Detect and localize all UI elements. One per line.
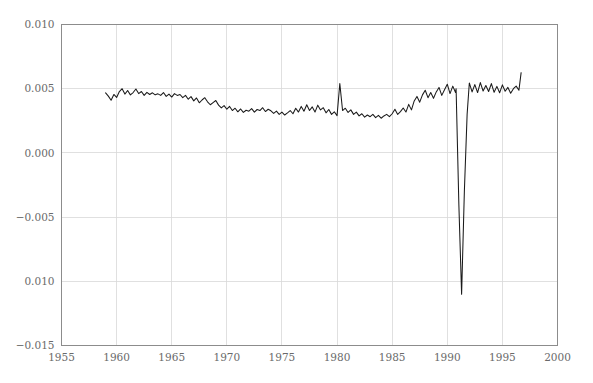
y-tick-label-4: 0.010 [24, 275, 54, 287]
y-tick-label-1: 0.005 [24, 82, 54, 94]
y-tick-label-2: 0.000 [24, 147, 54, 159]
x-tick-label-4: 1975 [269, 351, 296, 363]
x-tick-label-0: 1955 [48, 351, 75, 363]
y-tick-label-5: −0.015 [16, 339, 55, 351]
x-tick-label-1: 1960 [103, 351, 130, 363]
y-tick-label-3: −0.005 [16, 211, 55, 223]
chart-container: 0.0100.0050.000−0.0050.010−0.015 1955196… [0, 0, 593, 383]
x-tick-label-7: 1990 [434, 351, 461, 363]
x-tick-label-5: 1980 [324, 351, 351, 363]
x-tick-label-2: 1965 [158, 351, 185, 363]
y-tick-label-0: 0.010 [24, 18, 54, 30]
chart-background [0, 0, 593, 383]
x-tick-label-6: 1985 [379, 351, 406, 363]
line-chart: 0.0100.0050.000−0.0050.010−0.015 1955196… [0, 0, 593, 383]
x-tick-label-8: 1995 [489, 351, 516, 363]
x-tick-label-9: 2000 [544, 351, 571, 363]
x-tick-label-3: 1970 [213, 351, 240, 363]
